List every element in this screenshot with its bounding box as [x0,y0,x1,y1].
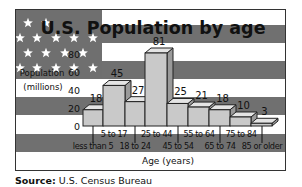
y-tick-label: 40 [68,85,80,96]
bar [83,110,103,126]
y-axis-title-line2: (millions) [23,82,62,92]
y-tick-label: 0 [74,121,80,132]
x-category-label-lower: 65 to 74 [204,141,235,151]
chart-frame: U.S. Population by age020406080Populatio… [15,9,286,171]
bar-value-label: 45 [111,68,124,79]
bar-value-label: 18 [216,93,229,104]
y-tick-label: 20 [68,103,80,114]
bar-value-label: 3 [261,106,267,117]
bar [145,53,167,126]
x-category-label-upper: 75 to 84 [225,129,256,139]
x-category-label-lower: 18 to 24 [119,141,150,151]
x-category-label-lower: 45 to 54 [162,141,193,151]
bar-value-label: 27 [132,85,145,96]
population-bar-chart: U.S. Population by age020406080Populatio… [16,10,286,171]
bar-value-label: 21 [195,90,208,101]
x-category-label-lower: less than 5 [73,141,114,151]
chart-title: U.S. Population by age [40,18,265,38]
y-tick-label: 60 [68,67,80,78]
source-note: Source: U.S. Census Bureau [15,175,152,186]
x-category-label-upper: 5 to 17 [101,129,127,139]
bar [167,103,188,126]
y-axis-title-line1: Population [20,68,65,78]
y-tick-label: 80 [68,49,80,60]
bar [209,110,230,126]
source-text: U.S. Census Bureau [59,175,152,186]
x-category-label-upper: 55 to 64 [183,129,214,139]
bar-value-label: 18 [90,93,103,104]
bar [188,107,209,126]
bar-value-label: 25 [174,86,187,97]
bar [103,85,125,126]
x-category-label-lower: 85 or older [242,141,284,151]
x-axis-title: Age (years) [142,156,194,166]
bar [230,117,251,126]
x-category-label-upper: 25 to 44 [141,129,172,139]
bar-value-label: 81 [153,36,166,47]
bar [251,123,272,126]
source-label: Source: [15,175,56,186]
bar [125,102,145,126]
bar-value-label: 10 [237,100,250,111]
